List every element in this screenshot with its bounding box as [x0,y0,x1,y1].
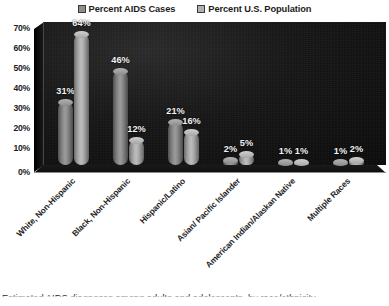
bar-group-black-non-hispanic: 46% 12% [113,71,144,165]
y-axis-tick-70: 70% [0,23,30,33]
bar-aids-cases-hispanic[interactable]: 21% [168,122,183,165]
bar-aids-cases-asian[interactable]: 2% [223,160,238,165]
bar-us-population-asian[interactable]: 5% [239,154,254,165]
bar-top-ellipse [129,137,144,144]
bar-value-label: 16% [182,116,200,126]
bar-body [184,132,199,165]
bar-us-population-hispanic[interactable]: 16% [184,132,199,165]
figure-caption-text: Estimated AIDS diagnoses among adults an… [2,292,387,303]
bar-top-ellipse [74,31,89,38]
bar-body [168,122,183,165]
bar-value-label: 1% [334,146,347,156]
bar-top-ellipse [113,68,128,75]
bar-groups: 31% 64% 46% 12% 21 [34,22,386,173]
bar-body [129,140,144,165]
bar-body [74,34,89,165]
bar-top-ellipse [168,119,183,126]
bar-aids-cases-multiple-races[interactable]: 1% [333,162,348,165]
bar-body [113,71,128,165]
bar-top-ellipse [184,129,199,136]
legend-label-series-2: Percent U.S. Population [208,4,311,14]
bar-value-label: 12% [127,124,145,134]
figure-caption: Estimated AIDS diagnoses among adults an… [0,292,389,306]
bar-us-population-black[interactable]: 12% [129,140,144,165]
bar-aids-cases-black[interactable]: 46% [113,71,128,165]
x-axis-labels: White, Non-Hispanic Black, Non-Hispanic … [34,176,386,272]
bar-aids-cases-american-indian[interactable]: 1% [278,162,293,165]
bar-aids-cases-white[interactable]: 31% [58,102,73,165]
bar-group-american-indian-alaskan-native: 1% 1% [278,162,309,165]
bar-top-ellipse [239,151,254,158]
y-axis: 70% 60% 50% 40% 30% 20% 10% 0% [0,22,32,174]
legend-item-percent-aids-cases[interactable]: Percent AIDS Cases [78,4,176,14]
bar-top-ellipse [349,157,364,164]
bar-top-ellipse [58,99,73,106]
x-axis-label-white-non-hispanic: White, Non-Hispanic [14,176,77,239]
bar-group-multiple-races: 1% 2% [333,160,364,165]
legend-swatch-icon-series-2 [197,5,205,13]
legend-label-series-1: Percent AIDS Cases [89,4,176,14]
bar-top-ellipse [333,159,348,166]
bar-value-label: 46% [111,55,129,65]
bar-group-hispanic-latino: 21% 16% [168,122,199,165]
chart-figure: Percent AIDS Cases Percent U.S. Populati… [0,0,389,306]
x-axis-label-multiple-races: Multiple Races [305,176,352,223]
y-axis-tick-0: 0% [0,167,30,177]
bar-value-label: 5% [240,138,253,148]
bar-us-population-white[interactable]: 64% [74,34,89,165]
bar-value-label: 64% [72,18,90,28]
legend-item-percent-us-population[interactable]: Percent U.S. Population [197,4,311,14]
y-axis-tick-60: 60% [0,43,30,53]
bar-group-asian-pacific-islander: 2% 5% [223,154,254,165]
bar-top-ellipse [294,159,309,166]
bar-value-label: 1% [295,146,308,156]
x-axis-label-american-indian-alaskan-native: American Indian/Alaskan Native [203,176,297,270]
y-axis-tick-30: 30% [0,103,30,113]
x-axis-label-hispanic-latino: Hispanic/Latino [137,176,187,226]
legend-swatch-icon-series-1 [78,5,86,13]
bar-top-ellipse [223,157,238,164]
y-axis-tick-50: 50% [0,63,30,73]
bar-us-population-multiple-races[interactable]: 2% [349,160,364,165]
chart-legend: Percent AIDS Cases Percent U.S. Populati… [0,2,389,16]
bar-value-label: 2% [224,144,237,154]
bar-body [58,102,73,165]
bar-value-label: 31% [56,86,74,96]
y-axis-tick-40: 40% [0,83,30,93]
bar-value-label: 2% [350,144,363,154]
bar-us-population-american-indian[interactable]: 1% [294,162,309,165]
y-axis-tick-20: 20% [0,123,30,133]
y-axis-tick-10: 10% [0,143,30,153]
x-axis-label-black-non-hispanic: Black, Non-Hispanic [70,176,132,238]
bar-group-white-non-hispanic: 31% 64% [58,34,89,165]
bar-top-ellipse [278,159,293,166]
bar-value-label: 21% [166,106,184,116]
bar-value-label: 1% [279,146,292,156]
